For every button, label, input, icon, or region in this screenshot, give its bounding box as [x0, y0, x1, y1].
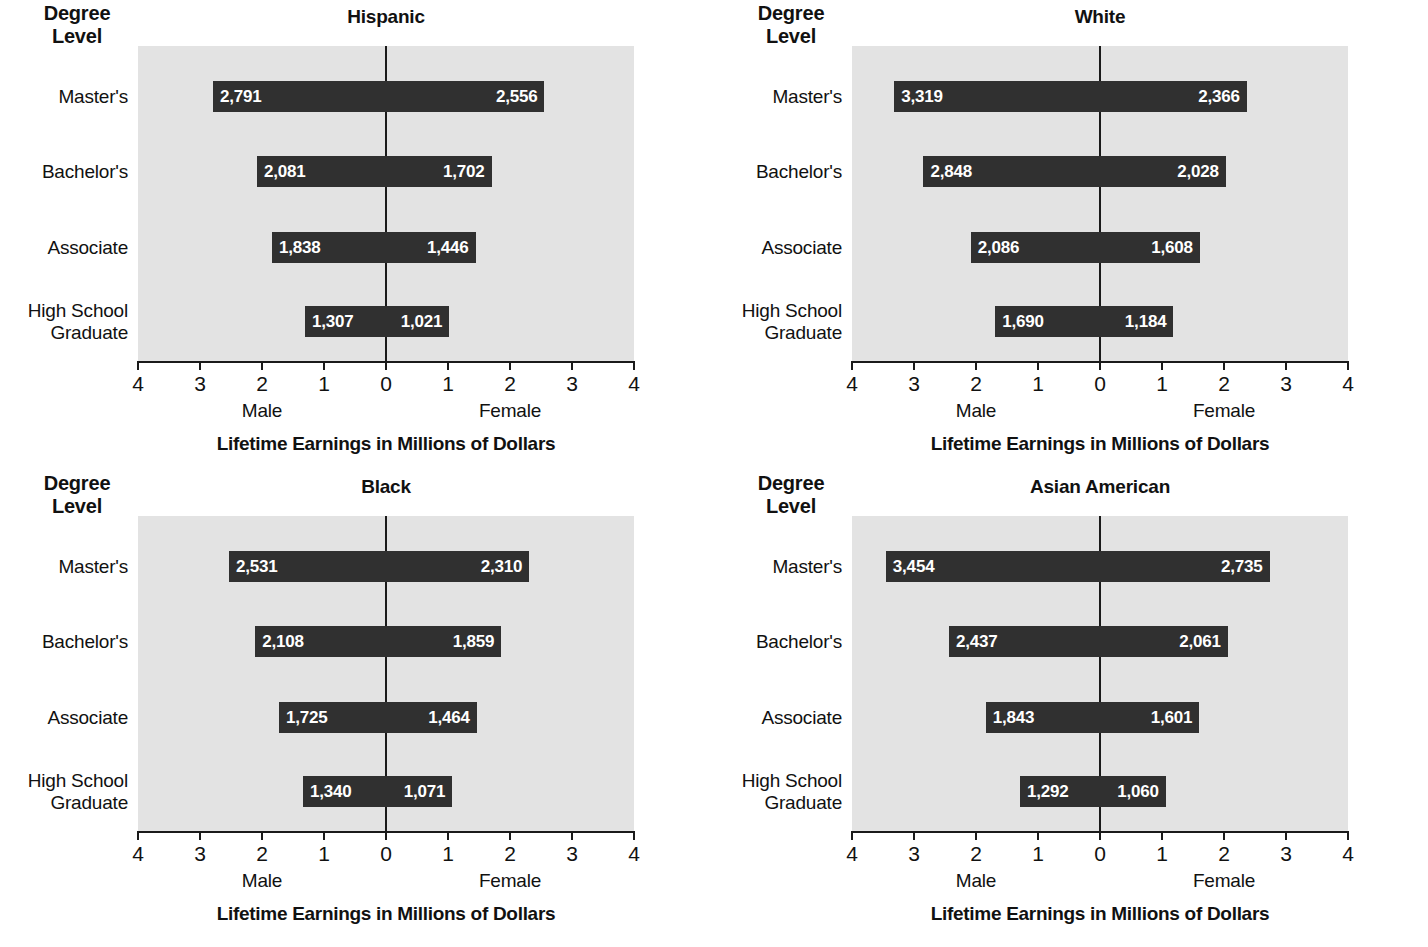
x-axis-tick-label: 1 — [1018, 842, 1058, 866]
x-axis-tick — [199, 831, 201, 840]
degree-level-heading-line1: Degree — [732, 472, 850, 495]
x-axis-title: Lifetime Earnings in Millions of Dollars — [138, 903, 634, 925]
x-axis-tick-label: 0 — [1080, 842, 1120, 866]
category-label-bachelor-s: Bachelor's — [714, 161, 842, 183]
category-label-line: Graduate — [0, 322, 128, 344]
degree-level-heading-line2: Level — [732, 495, 850, 518]
female-value-label: 1,464 — [428, 708, 470, 728]
x-axis-tick-label: 1 — [428, 372, 468, 396]
bar-row: 1,8381,446 — [272, 232, 476, 263]
x-axis-tick-label: 0 — [366, 842, 406, 866]
female-axis-label: Female — [450, 400, 570, 422]
x-axis-tick — [1347, 831, 1349, 840]
x-axis-tick-label: 4 — [1328, 372, 1368, 396]
female-value-label: 1,021 — [401, 312, 443, 332]
category-label-high-school-graduate: High SchoolGraduate — [0, 300, 128, 344]
x-axis-tick-label: 2 — [1204, 842, 1244, 866]
category-label-line: Graduate — [714, 792, 842, 814]
chart-title: Hispanic — [138, 6, 634, 28]
plot-area: 3,3192,3662,8482,0282,0861,6081,6901,184 — [852, 46, 1348, 361]
male-value-label: 1,843 — [993, 708, 1035, 728]
female-value-label: 1,702 — [443, 162, 485, 182]
male-axis-label: Male — [916, 870, 1036, 892]
female-value-label: 2,366 — [1198, 87, 1240, 107]
bar-row: 2,5312,310 — [229, 551, 529, 582]
category-label-master-s: Master's — [0, 556, 128, 578]
category-label-line: Associate — [0, 237, 128, 259]
category-label-line: Associate — [714, 237, 842, 259]
x-axis-title: Lifetime Earnings in Millions of Dollars — [138, 433, 634, 455]
x-axis-tick — [1347, 361, 1349, 370]
degree-level-heading-line1: Degree — [18, 2, 136, 25]
x-axis-tick — [1161, 361, 1163, 370]
category-label-line: Bachelor's — [714, 161, 842, 183]
male-value-label: 2,081 — [264, 162, 306, 182]
x-axis-tick — [571, 831, 573, 840]
x-axis-tick-label: 0 — [1080, 372, 1120, 396]
x-axis-tick — [913, 361, 915, 370]
category-label-line: High School — [714, 770, 842, 792]
bar-row: 2,1081,859 — [255, 626, 501, 657]
x-axis-tick — [509, 361, 511, 370]
chart-title: Black — [138, 476, 634, 498]
category-label-line: Associate — [714, 707, 842, 729]
category-label-line: Master's — [0, 86, 128, 108]
category-label-line: Associate — [0, 707, 128, 729]
x-axis-tick-label: 1 — [1018, 372, 1058, 396]
bar-row: 2,4372,061 — [949, 626, 1228, 657]
category-label-line: Graduate — [0, 792, 128, 814]
plot-area: 2,5312,3102,1081,8591,7251,4641,3401,071 — [138, 516, 634, 831]
chart-title: White — [852, 6, 1348, 28]
category-label-associate: Associate — [714, 707, 842, 729]
female-value-label: 2,310 — [481, 557, 523, 577]
female-axis-label: Female — [1164, 870, 1284, 892]
x-axis-tick-label: 1 — [1142, 372, 1182, 396]
x-axis-tick-label: 1 — [1142, 842, 1182, 866]
male-value-label: 2,531 — [236, 557, 278, 577]
x-axis-tick-label: 3 — [552, 372, 592, 396]
x-axis-tick-label: 1 — [304, 372, 344, 396]
x-axis-tick-label: 3 — [1266, 842, 1306, 866]
x-axis-tick — [851, 831, 853, 840]
x-axis-tick-label: 3 — [1266, 372, 1306, 396]
x-axis-tick — [1037, 831, 1039, 840]
chart-panel-asian-american: DegreeLevelAsian AmericanMaster'sBachelo… — [714, 470, 1428, 947]
x-axis-tick — [1099, 361, 1101, 370]
x-axis-tick-label: 3 — [180, 372, 220, 396]
male-value-label: 2,848 — [930, 162, 972, 182]
category-label-associate: Associate — [714, 237, 842, 259]
category-label-high-school-graduate: High SchoolGraduate — [714, 300, 842, 344]
x-axis-tick — [1161, 831, 1163, 840]
degree-level-heading-line1: Degree — [732, 2, 850, 25]
degree-level-heading: DegreeLevel — [732, 472, 850, 518]
x-axis-tick-label: 3 — [894, 372, 934, 396]
category-label-associate: Associate — [0, 237, 128, 259]
x-axis-tick — [261, 831, 263, 840]
female-value-label: 1,060 — [1117, 782, 1159, 802]
x-axis-tick — [323, 831, 325, 840]
female-axis-label: Female — [1164, 400, 1284, 422]
male-value-label: 1,690 — [1002, 312, 1044, 332]
x-axis-tick-label: 4 — [118, 372, 158, 396]
x-axis-tick-label: 3 — [894, 842, 934, 866]
category-label-line: Graduate — [714, 322, 842, 344]
x-axis-tick-label: 4 — [832, 372, 872, 396]
degree-level-heading-line2: Level — [732, 25, 850, 48]
bar-row: 2,7912,556 — [213, 81, 545, 112]
x-axis-title: Lifetime Earnings in Millions of Dollars — [852, 433, 1348, 455]
female-value-label: 1,601 — [1151, 708, 1193, 728]
category-label-associate: Associate — [0, 707, 128, 729]
female-value-label: 2,061 — [1179, 632, 1221, 652]
x-axis-tick — [1037, 361, 1039, 370]
male-value-label: 1,340 — [310, 782, 352, 802]
male-value-label: 1,307 — [312, 312, 354, 332]
x-axis-tick — [323, 361, 325, 370]
x-axis-title: Lifetime Earnings in Millions of Dollars — [852, 903, 1348, 925]
bar-row: 3,4542,735 — [886, 551, 1270, 582]
bar-row: 2,0811,702 — [257, 156, 492, 187]
x-axis-tick — [137, 361, 139, 370]
bar-row: 1,3071,021 — [305, 306, 449, 337]
x-axis-tick-label: 4 — [614, 372, 654, 396]
x-axis-tick — [261, 361, 263, 370]
male-value-label: 2,086 — [978, 238, 1020, 258]
